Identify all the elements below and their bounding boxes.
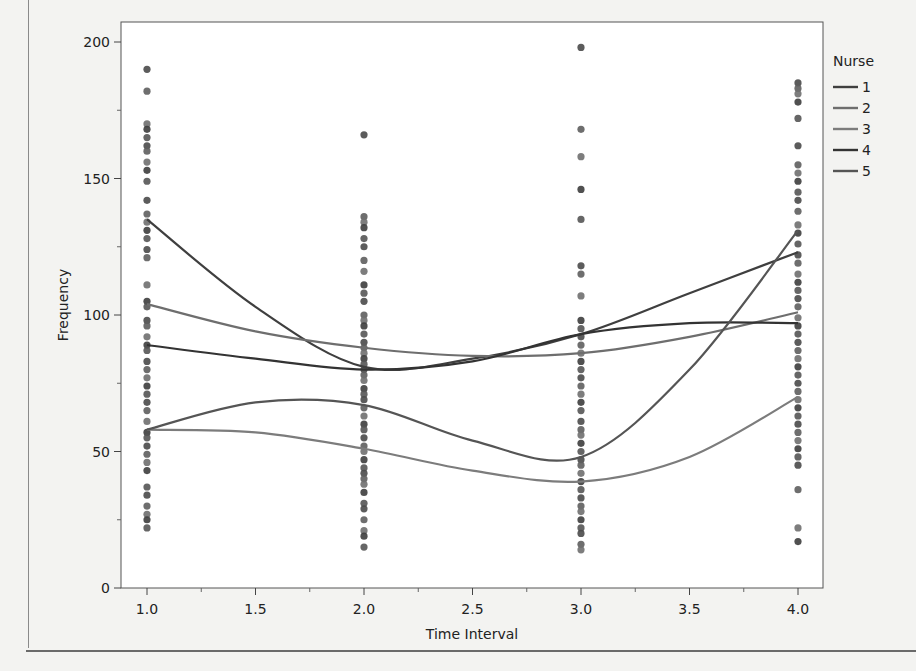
data-point: [794, 295, 801, 302]
data-point: [577, 126, 584, 133]
data-point: [577, 418, 584, 425]
data-point: [577, 317, 584, 324]
data-point: [577, 44, 584, 51]
data-point: [360, 505, 367, 512]
data-point: [794, 98, 801, 105]
data-point: [143, 322, 150, 329]
data-point: [577, 508, 584, 515]
y-axis: 050100150200: [83, 34, 121, 596]
data-point: [360, 331, 367, 338]
data-point: [794, 404, 801, 411]
data-point: [143, 451, 150, 458]
data-point: [360, 516, 367, 523]
data-point: [577, 341, 584, 348]
data-point: [794, 270, 801, 277]
data-point: [360, 377, 367, 384]
data-point: [794, 314, 801, 321]
data-point: [143, 235, 150, 242]
x-axis-label: Time Interval: [425, 626, 518, 642]
data-point: [577, 440, 584, 447]
data-point: [577, 448, 584, 455]
data-point: [794, 388, 801, 395]
data-point: [360, 281, 367, 288]
data-point: [143, 459, 150, 466]
data-point: [360, 322, 367, 329]
data-point: [577, 374, 584, 381]
x-tick-label: 2.5: [461, 601, 483, 617]
x-axis: 1.01.52.02.53.03.54.0: [136, 588, 809, 617]
data-point: [794, 303, 801, 310]
data-point: [143, 159, 150, 166]
data-point: [794, 437, 801, 444]
data-point: [794, 524, 801, 531]
data-point: [577, 358, 584, 365]
data-point: [360, 257, 367, 264]
legend-label: 4: [862, 142, 871, 158]
y-tick-label: 100: [83, 307, 110, 323]
data-point: [143, 399, 150, 406]
legend-title: Nurse: [833, 53, 874, 69]
data-point: [794, 208, 801, 215]
data-point: [577, 399, 584, 406]
data-point: [794, 421, 801, 428]
x-tick-label: 1.5: [244, 601, 266, 617]
data-point: [794, 429, 801, 436]
data-point: [577, 470, 584, 477]
data-point: [577, 270, 584, 277]
x-tick-label: 4.0: [787, 601, 809, 617]
data-point: [360, 131, 367, 138]
data-point: [143, 197, 150, 204]
data-point: [143, 347, 150, 354]
data-point: [577, 325, 584, 332]
data-point: [794, 445, 801, 452]
data-point: [143, 167, 150, 174]
data-point: [360, 434, 367, 441]
data-point: [794, 161, 801, 168]
data-point: [794, 90, 801, 97]
data-point: [143, 391, 150, 398]
data-point: [143, 524, 150, 531]
data-point: [143, 374, 150, 381]
data-point: [143, 281, 150, 288]
data-point: [143, 178, 150, 185]
data-point: [577, 153, 584, 160]
figure: 050100150200 1.01.52.02.53.03.54.0 Frequ…: [0, 0, 916, 671]
data-point: [143, 503, 150, 510]
plot-area: [121, 22, 823, 588]
data-point: [360, 268, 367, 275]
data-point: [143, 467, 150, 474]
data-point: [794, 115, 801, 122]
data-point: [794, 462, 801, 469]
data-point: [143, 134, 150, 141]
y-tick-label: 150: [83, 171, 110, 187]
data-point: [577, 186, 584, 193]
legend: Nurse 12345: [833, 53, 874, 179]
x-tick-label: 3.5: [678, 601, 700, 617]
legend-label: 1: [862, 79, 871, 95]
data-point: [143, 227, 150, 234]
data-point: [577, 462, 584, 469]
data-point: [794, 189, 801, 196]
data-point: [360, 481, 367, 488]
data-point: [794, 279, 801, 286]
data-point: [360, 426, 367, 433]
data-point: [360, 290, 367, 297]
data-point: [143, 126, 150, 133]
data-point: [577, 366, 584, 373]
data-point: [143, 210, 150, 217]
data-point: [794, 197, 801, 204]
data-point: [143, 516, 150, 523]
data-point: [143, 366, 150, 373]
data-point: [794, 347, 801, 354]
data-point: [143, 492, 150, 499]
data-point: [794, 371, 801, 378]
data-point: [143, 358, 150, 365]
y-tick-label: 200: [83, 34, 110, 50]
data-point: [360, 396, 367, 403]
data-point: [794, 287, 801, 294]
legend-label: 5: [862, 163, 871, 179]
data-point: [577, 391, 584, 398]
data-point: [360, 298, 367, 305]
x-tick-label: 1.0: [136, 601, 158, 617]
data-point: [360, 489, 367, 496]
